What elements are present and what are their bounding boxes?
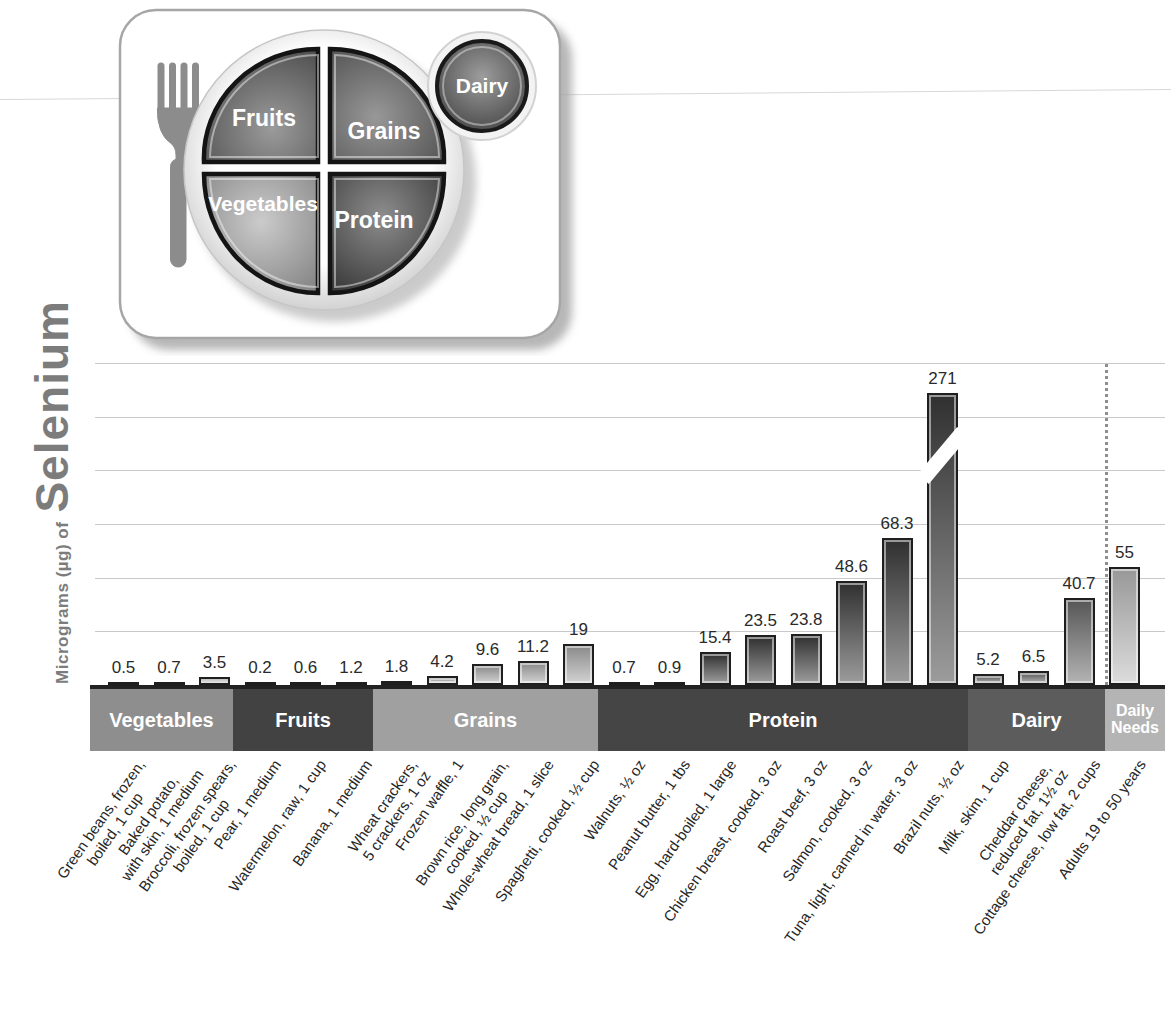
plate-label-grains: Grains xyxy=(348,118,421,144)
bar-cheddar-cheese-reduced-fat-1-oz xyxy=(1018,671,1049,685)
bar-value-label: 40.7 xyxy=(1044,574,1114,594)
bar-watermelon-raw-1-cup xyxy=(290,682,321,686)
plate-label-fruits: Fruits xyxy=(232,105,296,131)
band-segment-grains: Grains xyxy=(373,689,598,751)
myplate-figure: Fruits Grains Vegetables Protein Dairy xyxy=(112,4,586,356)
bar-milk-skim-1-cup xyxy=(973,674,1004,685)
bar-wheat-crackers-5-crackers-1-oz xyxy=(381,681,412,685)
gridline-125 xyxy=(95,417,1165,418)
bar-value-label: 68.3 xyxy=(862,514,932,534)
bar-salmon-cooked-3-oz xyxy=(836,581,867,685)
bar-chicken-breast-cooked-3-oz xyxy=(745,635,776,685)
y-axis-unit-label: Micrograms (µg) of xyxy=(53,522,73,684)
bar-banana-1-medium xyxy=(336,682,367,686)
bar-broccoli-frozen-spears-boiled-1-cup xyxy=(199,677,230,685)
gridline-150 xyxy=(95,363,1165,364)
bar-value-label: 48.6 xyxy=(817,557,887,577)
gridline-50 xyxy=(95,578,1165,579)
food-group-band: VegetablesFruitsGrainsProteinDairyDailyN… xyxy=(90,689,1165,751)
bar-frozen-waffle-1 xyxy=(427,676,458,685)
bar-value-label: 15.4 xyxy=(680,628,750,648)
x-axis-label: Peanut butter, 1 tbs xyxy=(606,757,694,873)
bar-walnuts-oz xyxy=(609,682,640,686)
plate-label-protein: Protein xyxy=(334,207,413,233)
gridline-100 xyxy=(95,470,1165,471)
bar-peanut-butter-1-tbs xyxy=(654,682,685,686)
plate-rim xyxy=(184,30,464,310)
bar-value-label: 271 xyxy=(908,369,978,389)
bar-value-label: 6.5 xyxy=(999,647,1069,667)
gridline-25 xyxy=(95,631,1165,632)
bar-whole-wheat-bread-1-slice xyxy=(518,661,549,685)
bar-cottage-cheese-low-fat-2-cups xyxy=(1064,598,1095,685)
band-segment-fruits: Fruits xyxy=(233,689,373,751)
bar-egg-hard-boiled-1-large xyxy=(700,652,731,685)
bar-baked-potato-with-skin-1-medium xyxy=(154,682,185,686)
bar-value-label: 55 xyxy=(1090,543,1160,563)
plate-label-vegetables: Vegetables xyxy=(208,192,318,215)
band-segment-vegetables: Vegetables xyxy=(90,689,233,751)
bar-tuna-light-canned-in-water-3-oz xyxy=(882,538,913,685)
bar-pear-1-medium xyxy=(245,682,276,686)
plate-label-dairy: Dairy xyxy=(456,74,509,97)
bar-brown-rice-long-grain-cooked-cup xyxy=(472,664,503,685)
gridline-75 xyxy=(95,524,1165,525)
chart-plot-area: 0.50.73.50.20.61.21.84.29.611.2190.70.91… xyxy=(90,360,1165,690)
bar-green-beans-frozen-boiled-1-cup xyxy=(108,682,139,686)
band-segment-daily-needs: DailyNeeds xyxy=(1105,689,1165,751)
bar-value-label: 19 xyxy=(544,620,614,640)
daily-needs-divider xyxy=(1105,364,1108,685)
bar-roast-beef-3-oz xyxy=(791,634,822,685)
bar-value-label: 11.2 xyxy=(498,637,568,657)
y-axis-nutrient-label: Selenium xyxy=(25,300,79,513)
bar-value-label: 0.9 xyxy=(635,658,705,678)
band-segment-protein: Protein xyxy=(598,689,968,751)
selenium-chart-page: Fruits Grains Vegetables Protein Dairy M… xyxy=(0,0,1171,1022)
bar-value-label: 23.8 xyxy=(771,610,841,630)
y-axis-title: Micrograms (µg) of Selenium xyxy=(25,272,85,712)
band-segment-dairy: Dairy xyxy=(968,689,1105,751)
bar-adults-19-to-50-years xyxy=(1109,567,1140,685)
